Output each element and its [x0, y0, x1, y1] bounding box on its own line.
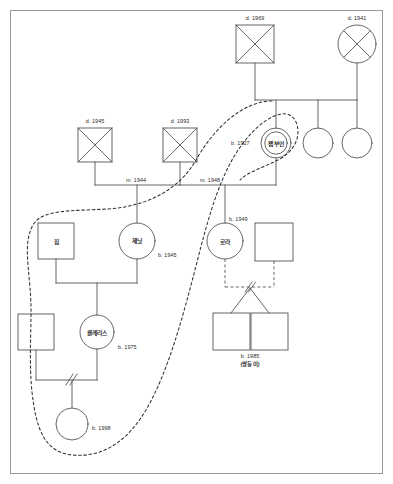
label-twins-note: (쌍둥이): [240, 361, 259, 367]
person-twin-a-square: [213, 313, 250, 350]
label-b-1975: b. 1975: [118, 344, 137, 350]
person-twin-b-square: [251, 313, 288, 350]
label-b-1998: b. 1998: [92, 425, 111, 431]
person-sister2-circle: [342, 128, 372, 158]
line-twin-a-fork: [231, 288, 250, 313]
label-b-1985: b. 1985: [241, 353, 260, 359]
label-m-1948: m. 1948: [200, 177, 220, 183]
person-name-jim: 짐: [54, 237, 59, 246]
page-border: [11, 11, 383, 474]
label-d-1941: d. 1941: [348, 15, 367, 21]
person-laura-spouse-square: [255, 223, 293, 261]
label-m-1944: m. 1944: [126, 177, 146, 183]
label-b-1945: b. 1945: [158, 252, 177, 258]
label-d-1993: d. 1993: [171, 118, 190, 124]
person-name-clarice: 클레리스: [87, 328, 107, 337]
person-clarice-spouse-square: [18, 314, 54, 350]
label-d-1945: d. 1945: [86, 118, 105, 124]
label-d-1969: d. 1969: [246, 15, 265, 21]
line-twin-b-fork: [250, 288, 269, 313]
genogram-drawing: [0, 0, 393, 484]
person-sister1-circle: [303, 128, 333, 158]
divorce-slash-clarice-2: [70, 374, 77, 385]
person-name-laura: 로라: [220, 237, 230, 246]
label-b-1949: b. 1949: [229, 216, 248, 222]
person-name-janet: 제닛: [132, 236, 142, 245]
person-name-pam: 팸 부인: [268, 139, 284, 148]
person-child-1998-circle: [56, 408, 88, 440]
label-b-1927: b. 1927: [231, 140, 250, 146]
genogram-canvas: d. 1969 d. 1941 d. 1945 d. 1993 m. 1944 …: [0, 0, 393, 484]
